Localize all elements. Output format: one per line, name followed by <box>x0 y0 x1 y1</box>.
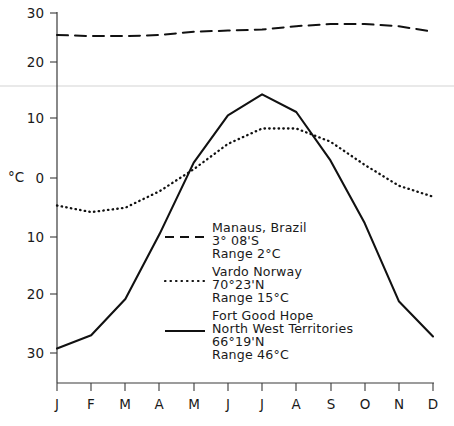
y-tick-label-0: 0 <box>10 172 44 186</box>
legend-entry-manaus: Manaus, Brazil 3° 08'S Range 2°C <box>164 222 414 260</box>
x-tick-label-jan: J <box>48 398 66 412</box>
climate-line-chart: °C 30 20 10 0 10 20 30 J F M A M J J A S… <box>0 0 454 426</box>
x-tick-label-dec: D <box>424 398 442 412</box>
legend-sample-dashed-icon <box>164 234 206 246</box>
legend-vardo-line3: Range 15°C <box>212 292 289 305</box>
legend-sample-solid-icon <box>164 328 206 340</box>
legend-entry-fort-good-hope: Fort Good Hope North West Territories 66… <box>164 310 414 362</box>
x-tick-label-jul: J <box>253 398 271 412</box>
legend-entry-vardo: Vardo Norway 70°23'N Range 15°C <box>164 266 414 304</box>
legend-sample-dotted-icon <box>164 278 206 290</box>
y-tick-label-minus10: 10 <box>10 231 44 245</box>
x-tick-label-sep: S <box>322 398 340 412</box>
plot-area <box>0 0 454 426</box>
y-tick-label-30: 30 <box>10 7 44 21</box>
x-tick-label-apr: A <box>150 398 168 412</box>
x-tick-label-oct: O <box>356 398 374 412</box>
y-tick-label-20: 20 <box>10 56 44 70</box>
x-tick-label-jun: J <box>219 398 237 412</box>
legend-fgh-line4: Range 46°C <box>212 349 289 362</box>
x-tick-label-aug: A <box>287 398 305 412</box>
y-axis-ticks <box>50 13 57 353</box>
x-tick-label-mar: M <box>116 398 134 412</box>
x-tick-label-may: M <box>185 398 203 412</box>
legend-manaus-line3: Range 2°C <box>212 248 281 261</box>
x-tick-label-feb: F <box>82 398 100 412</box>
x-axis-ticks <box>57 383 433 391</box>
x-tick-label-nov: N <box>390 398 408 412</box>
y-tick-label-minus30: 30 <box>10 347 44 361</box>
y-tick-label-10: 10 <box>10 112 44 126</box>
series-line-manaus <box>57 24 433 36</box>
series-line-vardo <box>57 129 433 213</box>
y-tick-label-minus20: 20 <box>10 288 44 302</box>
